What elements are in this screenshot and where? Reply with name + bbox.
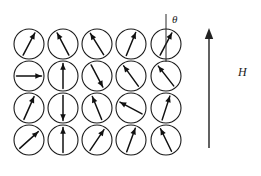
spin-site-2-2: [48, 61, 78, 91]
spin-site-1-3: [82, 29, 112, 59]
spin-arrowhead: [60, 128, 66, 134]
spin-arrowhead: [60, 114, 66, 120]
spin-lattice-figure: θ H: [0, 0, 261, 176]
field-arrowhead: [205, 28, 213, 39]
external-field-label: H: [238, 66, 247, 78]
spin-site-4-2: [48, 125, 78, 155]
theta-angle-label: θ: [172, 14, 177, 25]
spin-site-1-2: [48, 29, 78, 59]
spin-site-3-3: [82, 93, 112, 123]
spin-site-4-1: [14, 125, 44, 155]
spin-site-1-1: [14, 29, 44, 59]
spin-site-4-3: [82, 125, 112, 155]
spin-site-4-5: [151, 125, 181, 155]
spin-site-3-4: [116, 93, 146, 123]
spin-arrowhead: [165, 96, 170, 103]
spin-site-3-2: [48, 93, 78, 123]
spin-site-1-4: [116, 29, 146, 59]
spin-arrowhead: [131, 128, 136, 135]
spin-site-2-3: [82, 61, 112, 91]
spin-site-2-4: [116, 61, 146, 91]
spin-site-3-5: [151, 93, 181, 123]
lattice-group: [14, 29, 181, 155]
spin-arrowhead: [35, 73, 41, 79]
spin-site-2-5: [151, 61, 181, 91]
spin-lattice-canvas: [0, 0, 261, 176]
spin-arrowhead: [98, 130, 104, 137]
external-field-arrow-group: [205, 28, 213, 148]
spin-site-3-1: [14, 93, 44, 123]
spin-arrowhead: [60, 64, 66, 70]
spin-site-4-4: [116, 125, 146, 155]
spin-site-2-1: [14, 61, 44, 91]
